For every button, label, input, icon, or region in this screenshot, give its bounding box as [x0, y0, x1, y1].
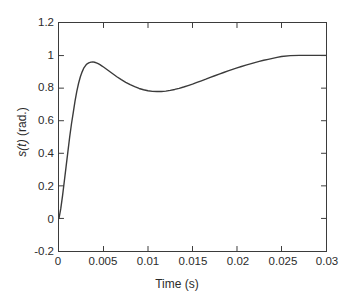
xtick-label-0-03: 0.03 [307, 256, 347, 268]
plot-svg [59, 23, 326, 251]
ytick-label-1-2: 1.2 [38, 17, 54, 29]
data-series-line [59, 55, 326, 218]
ytick-label-0-2: 0.2 [38, 181, 54, 193]
ytick-label-0-8: 0.8 [38, 82, 54, 94]
xtick-label-0-005: 0.005 [83, 256, 123, 268]
xtick-label-0-02: 0.02 [218, 256, 258, 268]
y-axis-title-symbol: s(t) [15, 139, 29, 156]
y-axis-title: s(t) (rad.) [15, 52, 29, 212]
xtick-label-0: 0 [38, 256, 78, 268]
xtick-label-0-01: 0.01 [128, 256, 168, 268]
y-axis-title-unit: (rad.) [15, 107, 29, 139]
tick-marks [59, 23, 326, 251]
xtick-label-0-015: 0.015 [173, 256, 213, 268]
ytick-label-0: 0 [48, 214, 54, 226]
x-axis-title: Time (s) [0, 277, 354, 291]
ytick-label-1: 1 [48, 50, 54, 62]
chart-screenshot: 1.2 1 0.8 0.6 0.4 0.2 0 -0.2 0 0.005 0.0… [0, 0, 354, 304]
plot-area [58, 22, 327, 252]
ytick-label-0-6: 0.6 [38, 115, 54, 127]
xtick-label-0-025: 0.025 [263, 256, 303, 268]
ytick-label-0-4: 0.4 [38, 148, 54, 160]
